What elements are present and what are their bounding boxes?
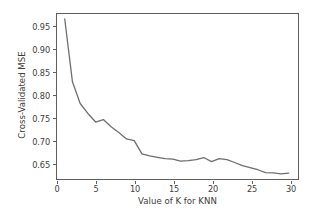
- y-axis-label: Cross-Validated MSE: [17, 15, 27, 175]
- ytick-label-6: 0.95: [24, 22, 50, 32]
- xtick-label-5: 25: [240, 184, 264, 194]
- ytick-label-0: 0.65: [24, 160, 50, 170]
- chart-figure: 0.65 0.70 0.75 0.80 0.85 0.90 0.95 0 5 1…: [0, 0, 319, 217]
- mse-line-series: [57, 14, 298, 179]
- plot-area: [56, 13, 299, 180]
- ytick-label-2: 0.75: [24, 114, 50, 124]
- series-polyline: [65, 19, 289, 174]
- ytick-label-4: 0.85: [24, 68, 50, 78]
- xtick-label-1: 5: [84, 184, 108, 194]
- ytick-label-3: 0.80: [24, 91, 50, 101]
- ytick-label-1: 0.70: [24, 137, 50, 147]
- xtick-label-6: 30: [279, 184, 303, 194]
- xtick-label-4: 20: [201, 184, 225, 194]
- x-axis-label: Value of K for KNN: [56, 196, 299, 206]
- xtick-label-2: 10: [123, 184, 147, 194]
- xtick-label-3: 15: [162, 184, 186, 194]
- xtick-label-0: 0: [45, 184, 69, 194]
- ytick-label-5: 0.90: [24, 45, 50, 55]
